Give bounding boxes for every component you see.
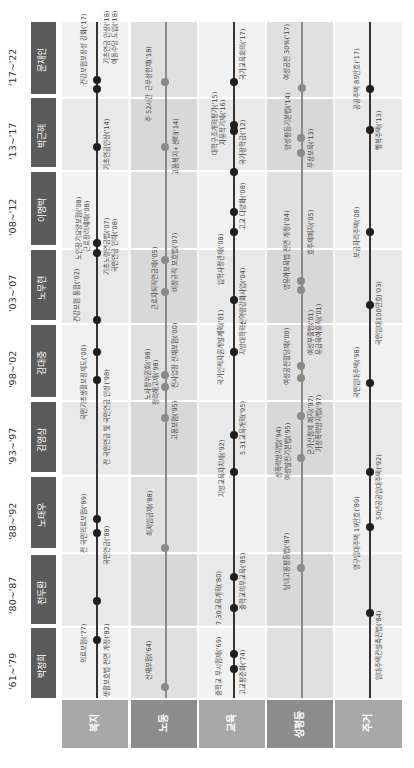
president-name: 문재인 bbox=[38, 48, 47, 72]
event-dot bbox=[366, 85, 374, 93]
event-label: 아동수당 도입('18) bbox=[112, 11, 119, 64]
event-dot bbox=[297, 277, 305, 285]
president-name: 김영삼 bbox=[38, 428, 47, 452]
event-label: 국가장학금('12) bbox=[240, 120, 247, 165]
timeline-line-housing bbox=[369, 22, 371, 698]
event-label: 국가교육회의('17) bbox=[240, 29, 247, 80]
category-name: 교육 bbox=[227, 714, 237, 732]
event-label: 국민임대100만호('03) bbox=[376, 281, 383, 345]
event-dot bbox=[297, 564, 305, 572]
event-label: 국민연금 인하('08) bbox=[112, 219, 119, 272]
president-box-moon-jaein: 문재인 bbox=[31, 22, 56, 94]
president-name: 박근혜 bbox=[38, 124, 47, 148]
president-years: '98~'02 bbox=[8, 351, 18, 388]
event-dot bbox=[366, 379, 374, 387]
category-name: 복지 bbox=[90, 714, 100, 732]
event-label: 남녀고용평등법('87) bbox=[284, 533, 291, 590]
event-label: 기초노령연금법('07) bbox=[104, 218, 111, 275]
event-label: 정리해고제('98) bbox=[153, 360, 160, 405]
event-label: 고교 다양화('08) bbox=[240, 183, 247, 230]
event-dot bbox=[93, 529, 101, 537]
president-box-chun-doohwan: 전두환 bbox=[31, 555, 56, 624]
event-dot bbox=[230, 348, 238, 356]
event-dot bbox=[93, 249, 101, 257]
event-dot bbox=[161, 143, 169, 151]
event-label: 행복주택('13) bbox=[376, 111, 383, 150]
event-dot bbox=[230, 468, 238, 476]
event-label: 국민연금('88) bbox=[104, 526, 111, 565]
event-dot bbox=[93, 348, 101, 356]
category-header-gender: 성평등 bbox=[267, 700, 333, 748]
president-years: '80~'87 bbox=[8, 577, 18, 614]
event-label: 전 국민의료보험('89) bbox=[81, 494, 88, 553]
event-dot bbox=[230, 78, 238, 86]
event-label: 50년공공임대주택('92) bbox=[376, 454, 383, 520]
category-name: 주거 bbox=[363, 714, 373, 732]
event-dot bbox=[366, 126, 374, 134]
event-dot bbox=[230, 296, 238, 304]
category-name: 성평등 bbox=[295, 711, 305, 738]
event-label: 임대주택건설촉진법('84) bbox=[376, 611, 383, 680]
event-label: 고교평준화('74) bbox=[240, 650, 247, 695]
timeline-line-gender bbox=[301, 22, 303, 698]
event-label: 대학구조개혁평가('15) bbox=[212, 92, 219, 155]
president-box-roh-moohyun: 노무현 bbox=[31, 250, 56, 320]
event-dot bbox=[230, 228, 238, 236]
event-label: 중학교 무시험제('69) bbox=[216, 637, 223, 696]
category-header-labor: 노동 bbox=[131, 700, 197, 748]
event-label: 유급육아휴직('01) bbox=[316, 304, 323, 355]
event-label: 영구임대주택 19만호('89) bbox=[354, 496, 361, 570]
president-name: 이명박 bbox=[38, 198, 47, 222]
category-header-housing: 주거 bbox=[335, 700, 402, 748]
event-dot bbox=[297, 454, 305, 462]
event-dot bbox=[161, 78, 169, 86]
president-years: '88~'92 bbox=[8, 503, 18, 540]
event-dot bbox=[230, 208, 238, 216]
event-label: 7.30교육개혁('80) bbox=[216, 571, 223, 625]
event-label: 최저임금제('88) bbox=[147, 491, 154, 536]
president-years: '17~'22 bbox=[8, 49, 18, 86]
event-dot bbox=[297, 362, 305, 370]
event-dot bbox=[230, 573, 238, 581]
event-dot bbox=[93, 76, 101, 84]
event-label: 근로자퇴직연금제('05) bbox=[152, 247, 159, 310]
event-label: 중학교의무교육('85) bbox=[240, 553, 247, 610]
president-name: 박정희 bbox=[38, 654, 47, 678]
event-label: 가정폭력방지법('97) bbox=[316, 395, 323, 452]
event-dot bbox=[161, 544, 169, 552]
event-label: 주 52시간 근무상한제('18) bbox=[146, 46, 153, 122]
event-dot bbox=[93, 85, 101, 93]
event-label: 건강보험보장성 강화('17) bbox=[81, 14, 88, 85]
event-dot bbox=[366, 523, 374, 531]
event-dot bbox=[366, 301, 374, 309]
event-label: 무상보육('13) bbox=[308, 129, 315, 168]
event-label: 기초연금인상('14) bbox=[104, 119, 111, 170]
event-dot bbox=[297, 149, 305, 157]
president-box-roh-taewoo: 노태우 bbox=[31, 477, 56, 548]
event-label: 국민기초생활보장제도('00) bbox=[81, 345, 88, 420]
event-label: 군가산점제 폐지('97) bbox=[308, 396, 315, 455]
event-dot bbox=[161, 371, 169, 379]
row-shade bbox=[62, 555, 402, 625]
event-label: 보금자리주택('08) bbox=[354, 207, 361, 258]
president-name: 전두환 bbox=[38, 581, 47, 605]
event-dot bbox=[366, 228, 374, 236]
event-label: 국민임대주택('98) bbox=[354, 347, 361, 398]
event-dot bbox=[297, 374, 305, 382]
category-header-welfare: 복지 bbox=[62, 700, 128, 748]
event-label: 호주제폐지('05) bbox=[308, 210, 315, 255]
event-dot bbox=[230, 604, 238, 612]
event-label: 근로장려세제('08) bbox=[84, 201, 91, 252]
event-dot bbox=[230, 168, 238, 176]
event-label: 산재보험('64) bbox=[146, 641, 153, 680]
event-dot bbox=[297, 134, 305, 142]
event-label: 비정규직 보호법('07) bbox=[172, 233, 179, 292]
event-dot bbox=[298, 84, 306, 92]
president-years: '61~'79 bbox=[8, 653, 18, 690]
president-name: 김대중 bbox=[38, 351, 47, 375]
event-dot bbox=[161, 288, 169, 296]
event-label: 지방교육자치제('92) bbox=[219, 440, 226, 497]
timeline-line-labor bbox=[165, 22, 167, 698]
event-dot bbox=[93, 376, 101, 384]
event-label: 의료보험('77) bbox=[81, 624, 88, 663]
